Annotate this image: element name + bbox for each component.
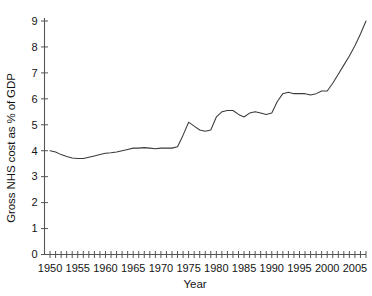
x-tick-label: 1980 xyxy=(204,262,228,274)
y-tick-label: 0 xyxy=(31,248,37,260)
x-tick-label: 1975 xyxy=(176,262,200,274)
y-tick-label: 7 xyxy=(31,67,37,79)
x-axis-tick-labels: 1950195519601965197019751980198519901995… xyxy=(38,262,367,274)
y-tick-label: 2 xyxy=(31,196,37,208)
series-line-nhs-cost xyxy=(50,21,366,159)
x-tick-label: 1960 xyxy=(93,262,117,274)
y-tick-label: 4 xyxy=(31,145,37,157)
y-tick-label: 8 xyxy=(31,41,37,53)
y-tick-label: 1 xyxy=(31,222,37,234)
x-tick-label: 1950 xyxy=(38,262,62,274)
y-tick-label: 9 xyxy=(31,15,37,27)
x-axis-group: 1950195519601965197019751980198519901995… xyxy=(38,251,367,274)
x-tick-label: 1995 xyxy=(287,262,311,274)
line-chart-plot: 0123456789 19501955196019651970197519801… xyxy=(0,0,372,296)
chart-container: Gross NHS cost as % of GDP 0123456789 19… xyxy=(0,0,372,296)
x-axis-title: Year xyxy=(0,278,372,290)
x-tick-label: 1955 xyxy=(66,262,90,274)
y-tick-label: 6 xyxy=(31,93,37,105)
data-series-group xyxy=(50,21,366,159)
x-tick-label: 2005 xyxy=(343,262,367,274)
x-tick-label: 1990 xyxy=(260,262,284,274)
x-tick-label: 1965 xyxy=(121,262,145,274)
x-tick-label: 1985 xyxy=(232,262,256,274)
y-axis-ticks: 0123456789 xyxy=(31,15,48,260)
x-tick-label: 1970 xyxy=(149,262,173,274)
x-tick-label: 2000 xyxy=(315,262,339,274)
y-tick-label: 3 xyxy=(31,170,37,182)
y-axis-group: 0123456789 xyxy=(31,15,48,260)
y-tick-label: 5 xyxy=(31,119,37,131)
